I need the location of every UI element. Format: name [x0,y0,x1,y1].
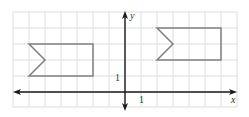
y-tick-label-1: 1 [115,72,120,83]
x-axis-label: x [230,94,236,105]
y-axis-label: y [129,10,135,21]
coordinate-plane-diagram: x y 1 1 [0,0,249,117]
x-tick-label-1: 1 [139,94,144,105]
axes-layer [13,11,237,111]
